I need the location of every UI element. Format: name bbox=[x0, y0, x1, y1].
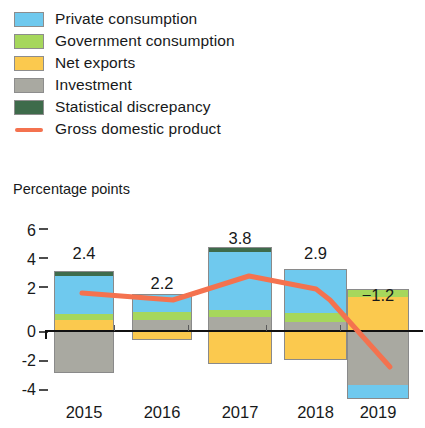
bar-value-label: 2.9 bbox=[272, 244, 359, 263]
bar-2015[interactable] bbox=[54, 0, 114, 428]
x-axis-tick bbox=[114, 325, 115, 331]
y-tick-label: -2 bbox=[8, 352, 36, 370]
bar-2016[interactable] bbox=[132, 0, 192, 428]
bar-segment bbox=[347, 385, 409, 399]
zero-axis-stub bbox=[45, 331, 47, 339]
x-tick-label: 2015 bbox=[42, 403, 126, 422]
y-tick-label: -4 bbox=[8, 381, 36, 399]
bar-segment bbox=[132, 312, 192, 320]
y-tick-label: 0 bbox=[8, 323, 36, 341]
bar-segment bbox=[347, 331, 409, 385]
bar-segment bbox=[284, 313, 347, 322]
bar-segment bbox=[132, 294, 192, 312]
bar-value-label: 3.8 bbox=[196, 229, 284, 248]
y-tick-dash bbox=[39, 286, 48, 288]
x-axis-tick bbox=[340, 325, 341, 331]
x-tick-label: 2016 bbox=[120, 403, 204, 422]
bar-value-label: 2.2 bbox=[120, 274, 204, 293]
bar-value-label: 2.4 bbox=[42, 244, 126, 263]
bar-value-label: −1.2 bbox=[335, 286, 421, 305]
bar-segment bbox=[54, 331, 114, 373]
y-tick-label: 4 bbox=[8, 251, 36, 269]
bar-2017[interactable] bbox=[208, 0, 272, 428]
bar-segment bbox=[132, 331, 192, 340]
x-tick-label: 2019 bbox=[335, 403, 421, 422]
chart-root: Private consumption Government consumpti… bbox=[0, 0, 425, 428]
plot-area: 6420-2-4 2.42.23.82.9−1.2 20152016201720… bbox=[0, 0, 425, 428]
y-tick-label: 2 bbox=[8, 280, 36, 298]
zero-baseline bbox=[45, 330, 423, 332]
bar-segment bbox=[208, 252, 272, 310]
bar-segment bbox=[54, 276, 114, 314]
x-tick-label: 2017 bbox=[196, 403, 284, 422]
bar-2019[interactable] bbox=[347, 0, 409, 428]
x-axis-tick bbox=[266, 325, 267, 331]
y-tick-dash bbox=[39, 228, 48, 230]
bar-2018[interactable] bbox=[284, 0, 347, 428]
y-tick-dash bbox=[39, 389, 48, 391]
y-tick-dash bbox=[39, 360, 48, 362]
x-axis-tick bbox=[188, 325, 189, 331]
bar-segment bbox=[284, 331, 347, 360]
y-tick-label: 6 bbox=[8, 222, 36, 240]
bar-segment bbox=[208, 317, 272, 331]
bar-segment bbox=[208, 310, 272, 317]
bar-segment bbox=[208, 331, 272, 364]
